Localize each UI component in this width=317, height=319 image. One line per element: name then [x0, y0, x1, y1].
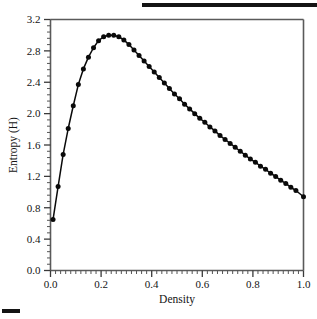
- tick-labels-group: 0.00.40.81.21.62.02.42.83.20.00.20.40.60…: [27, 13, 311, 290]
- data-series-group: [51, 33, 306, 222]
- data-point: [288, 185, 293, 190]
- y-tick-label: 2.4: [27, 76, 41, 88]
- data-point: [243, 153, 248, 158]
- data-point: [157, 75, 162, 80]
- y-tick-label: 1.6: [27, 139, 41, 151]
- data-point: [293, 188, 298, 193]
- data-point: [192, 111, 197, 116]
- bottom-decorative-rule: [2, 309, 20, 313]
- chart-plot-area: 0.00.40.81.21.62.02.42.83.20.00.20.40.60…: [0, 0, 317, 319]
- data-point: [233, 145, 238, 150]
- data-point: [126, 42, 131, 47]
- x-tick-label: 0.4: [145, 278, 159, 290]
- data-point: [66, 126, 71, 131]
- ticks-group: [44, 20, 304, 278]
- x-tick-label: 1.0: [297, 278, 311, 290]
- y-axis-title: Entropy (H): [7, 117, 20, 173]
- y-tick-label: 3.2: [27, 13, 41, 25]
- data-point: [248, 157, 253, 162]
- data-point: [51, 217, 56, 222]
- y-tick-label: 1.2: [27, 170, 41, 182]
- data-point: [81, 66, 86, 71]
- data-point: [268, 171, 273, 176]
- data-point: [162, 81, 167, 86]
- entropy-density-chart: 0.00.40.81.21.62.02.42.83.20.00.20.40.60…: [0, 0, 317, 319]
- data-point: [258, 164, 263, 169]
- y-tick-label: 2.8: [27, 45, 41, 57]
- x-tick-label: 0.2: [94, 278, 108, 290]
- y-tick-label: 0.0: [27, 264, 41, 276]
- data-point: [283, 181, 288, 186]
- x-tick-label: 0.6: [195, 278, 209, 290]
- y-tick-label: 0.4: [27, 233, 41, 245]
- figure-container: 0.00.40.81.21.62.02.42.83.20.00.20.40.60…: [0, 0, 317, 319]
- data-point: [131, 48, 136, 53]
- data-point: [91, 45, 96, 50]
- data-point: [96, 38, 101, 43]
- data-point: [137, 53, 142, 58]
- data-point: [142, 59, 147, 64]
- data-point: [116, 34, 121, 39]
- data-point: [167, 86, 172, 91]
- data-point: [218, 133, 223, 138]
- data-point: [238, 149, 243, 154]
- data-point: [202, 120, 207, 125]
- data-point: [212, 128, 217, 133]
- data-point: [111, 33, 116, 38]
- data-point: [273, 174, 278, 179]
- data-point: [177, 96, 182, 101]
- data-point: [71, 103, 76, 108]
- data-point: [197, 116, 202, 121]
- data-point: [56, 184, 61, 189]
- data-point: [76, 82, 81, 87]
- x-tick-label: 0.8: [246, 278, 260, 290]
- series-line-1: [53, 35, 303, 219]
- x-tick-label: 0.0: [44, 278, 58, 290]
- data-point: [301, 194, 306, 199]
- data-point: [223, 137, 228, 142]
- data-point: [101, 34, 106, 39]
- data-point: [106, 33, 111, 38]
- y-tick-label: 0.8: [27, 202, 41, 214]
- data-point: [86, 55, 91, 60]
- x-axis-title: Density: [159, 293, 195, 306]
- data-point: [187, 106, 192, 111]
- data-point: [207, 124, 212, 129]
- data-point: [182, 102, 187, 107]
- y-tick-label: 2.0: [27, 107, 41, 119]
- data-point: [278, 178, 283, 183]
- data-point: [61, 152, 66, 157]
- data-point: [228, 141, 233, 146]
- data-point: [172, 92, 177, 97]
- data-point: [147, 64, 152, 69]
- data-point: [121, 37, 126, 42]
- data-point: [263, 167, 268, 172]
- data-point: [152, 70, 157, 75]
- data-point: [253, 160, 258, 165]
